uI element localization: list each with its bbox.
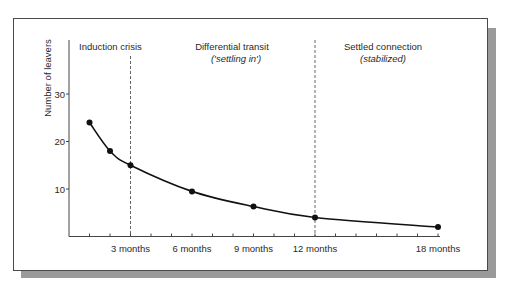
x-tick-label: 6 months [172,243,211,254]
data-point [312,215,318,221]
phase-sublabel-differential: ('settling in') [211,53,261,64]
x-tick-label: 3 months [111,243,150,254]
y-tick-label: 10 [54,184,65,195]
phase-sublabel-settled: (stabilized) [360,53,406,64]
y-axis-label: Number of leavers [42,39,53,117]
data-points [87,120,442,231]
phase-label-differential: Differential transit [195,41,269,52]
data-point [128,162,134,168]
data-point [251,204,257,210]
phase-label-induction: Induction crisis [79,41,142,52]
y-ticks: 102030 [54,89,69,195]
leavers-curve [90,123,439,228]
x-tick-label: 9 months [234,243,273,254]
data-point [107,148,113,154]
data-point [435,224,441,230]
x-tick-label: 18 months [416,243,461,254]
x-tick-label: 12 months [293,243,338,254]
data-point [189,188,195,194]
chart-canvas: 102030 3 months6 months9 months12 months… [0,0,506,286]
data-point [87,120,93,126]
phase-dividers [131,40,316,237]
phase-label-settled: Settled connection [344,41,422,52]
y-tick-label: 30 [54,89,65,100]
y-tick-label: 20 [54,136,65,147]
